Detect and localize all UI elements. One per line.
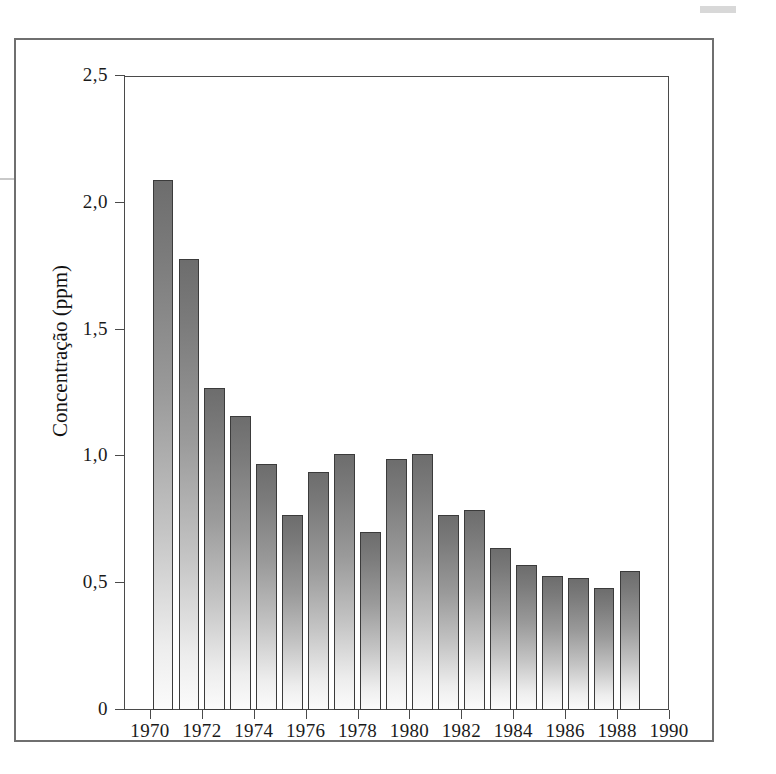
bar bbox=[308, 472, 329, 710]
x-axis-tick bbox=[306, 710, 307, 719]
y-axis-tick-label: 2,5 bbox=[16, 65, 108, 84]
x-axis-tick-label: 1990 bbox=[639, 720, 699, 741]
y-axis-tick-label: 1,0 bbox=[16, 445, 108, 464]
y-axis-title: Concentração (ppm) bbox=[49, 231, 71, 471]
y-axis-tick-label: 0 bbox=[16, 699, 108, 718]
bar bbox=[464, 510, 485, 710]
x-axis-tick bbox=[461, 710, 462, 719]
bar bbox=[153, 180, 174, 710]
y-axis-tick bbox=[115, 709, 125, 710]
x-axis-tick bbox=[358, 710, 359, 719]
y-axis-tick bbox=[115, 582, 125, 583]
bar bbox=[179, 259, 200, 710]
y-axis-tick bbox=[115, 455, 125, 456]
bar bbox=[438, 515, 459, 710]
bar bbox=[516, 565, 537, 710]
x-axis-tick bbox=[409, 710, 410, 719]
bar-chart: Concentração (ppm) 2,52,01,51,00,5019701… bbox=[16, 40, 716, 744]
x-axis-tick bbox=[617, 710, 618, 719]
y-axis-tick-label: 0,5 bbox=[16, 572, 108, 591]
x-axis-tick bbox=[513, 710, 514, 719]
y-axis-tick-label: 2,0 bbox=[16, 192, 108, 211]
bar bbox=[568, 578, 589, 710]
bar bbox=[412, 454, 433, 710]
scan-artifact-top-right bbox=[700, 6, 736, 13]
y-axis-tick bbox=[115, 329, 125, 330]
bar bbox=[594, 588, 615, 710]
bar bbox=[256, 464, 277, 710]
y-axis-tick bbox=[115, 75, 125, 76]
x-axis-tick bbox=[150, 710, 151, 719]
bar bbox=[334, 454, 355, 710]
x-axis-tick bbox=[254, 710, 255, 719]
bar bbox=[204, 388, 225, 710]
figure-frame: Concentração (ppm) 2,52,01,51,00,5019701… bbox=[14, 38, 714, 742]
bar bbox=[282, 515, 303, 710]
bar bbox=[542, 576, 563, 710]
bar bbox=[360, 532, 381, 710]
bar bbox=[386, 459, 407, 710]
y-axis-tick-label: 1,5 bbox=[16, 319, 108, 338]
y-axis-tick bbox=[115, 202, 125, 203]
bar bbox=[620, 571, 641, 710]
x-axis-tick bbox=[669, 710, 670, 719]
x-axis-tick bbox=[202, 710, 203, 719]
bar bbox=[490, 548, 511, 710]
bar bbox=[230, 416, 251, 710]
x-axis-tick bbox=[565, 710, 566, 719]
